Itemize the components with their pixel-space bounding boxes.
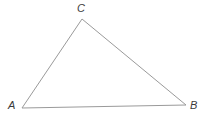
triangle-abc-outline <box>22 19 186 108</box>
vertex-label-a: A <box>8 100 15 111</box>
triangle-diagram-canvas: A B C <box>0 0 206 124</box>
vertex-label-b: B <box>190 100 197 111</box>
vertex-label-c: C <box>77 3 85 14</box>
triangle-figure <box>0 0 206 124</box>
